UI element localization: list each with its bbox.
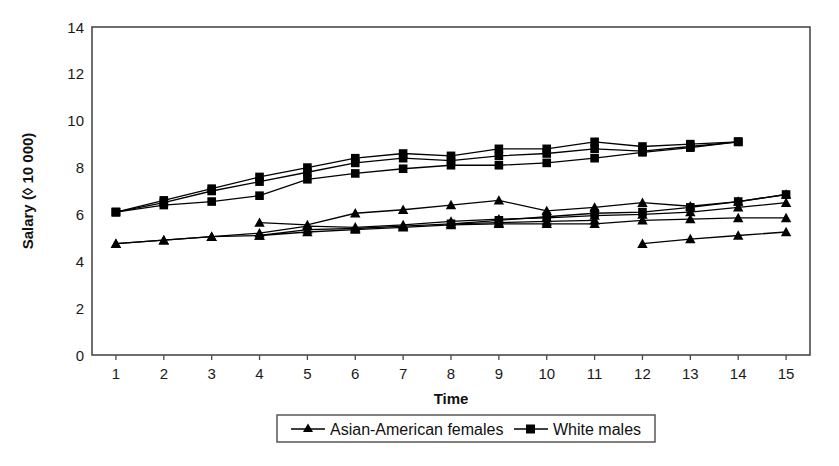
square-marker-icon: [734, 138, 743, 147]
x-tick-label: 4: [255, 365, 263, 382]
chart-background: [0, 0, 839, 466]
square-marker-icon: [351, 169, 360, 178]
x-tick-label: 11: [587, 365, 603, 382]
square-marker-icon: [399, 164, 408, 173]
square-marker-icon: [160, 201, 169, 210]
x-tick-label: 5: [303, 365, 311, 382]
square-marker-icon: [207, 187, 216, 196]
salary-over-time-chart: 02468101214 123456789101112131415 Salary…: [0, 0, 839, 466]
x-tick-label: 12: [634, 365, 651, 382]
square-marker-icon: [542, 159, 551, 168]
y-axis-title: Salary (◊ 10 000): [19, 133, 36, 250]
legend-label-white-males: White males: [553, 421, 641, 438]
square-marker-icon: [686, 143, 695, 152]
x-tick-label: 1: [112, 365, 120, 382]
square-marker-icon: [207, 197, 216, 206]
square-marker-icon: [495, 152, 504, 161]
square-marker-icon: [590, 154, 599, 163]
y-tick-label: 8: [76, 159, 84, 176]
x-tick-label: 15: [778, 365, 795, 382]
x-tick-label: 7: [399, 365, 407, 382]
y-tick-label: 2: [76, 300, 84, 317]
y-tick-label: 12: [67, 65, 84, 82]
x-axis-tick-labels: 123456789101112131415: [112, 365, 795, 382]
y-tick-label: 6: [76, 206, 84, 223]
y-tick-label: 0: [76, 347, 84, 364]
y-tick-label: 4: [76, 253, 84, 270]
square-marker-icon: [447, 161, 456, 170]
square-marker-icon: [590, 145, 599, 154]
square-marker-icon: [638, 148, 647, 157]
square-marker-icon: [255, 191, 264, 200]
x-axis-title: Time: [434, 390, 469, 407]
x-tick-label: 3: [207, 365, 215, 382]
x-tick-label: 2: [160, 365, 168, 382]
square-marker-icon: [495, 161, 504, 170]
x-tick-label: 13: [682, 365, 699, 382]
y-tick-label: 10: [67, 112, 84, 129]
legend-label-asian-american-females: Asian-American females: [330, 421, 503, 438]
x-tick-label: 14: [730, 365, 747, 382]
square-marker-icon: [255, 177, 264, 186]
square-marker-icon: [112, 208, 121, 217]
square-marker-icon: [542, 149, 551, 158]
y-tick-label: 14: [67, 19, 84, 36]
square-marker-icon: [303, 175, 312, 184]
square-marker-icon: [399, 154, 408, 163]
square-marker-icon: [351, 159, 360, 168]
x-tick-label: 8: [447, 365, 455, 382]
x-tick-label: 6: [351, 365, 359, 382]
x-tick-label: 10: [538, 365, 555, 382]
square-marker-icon: [526, 425, 535, 434]
x-tick-label: 9: [495, 365, 503, 382]
